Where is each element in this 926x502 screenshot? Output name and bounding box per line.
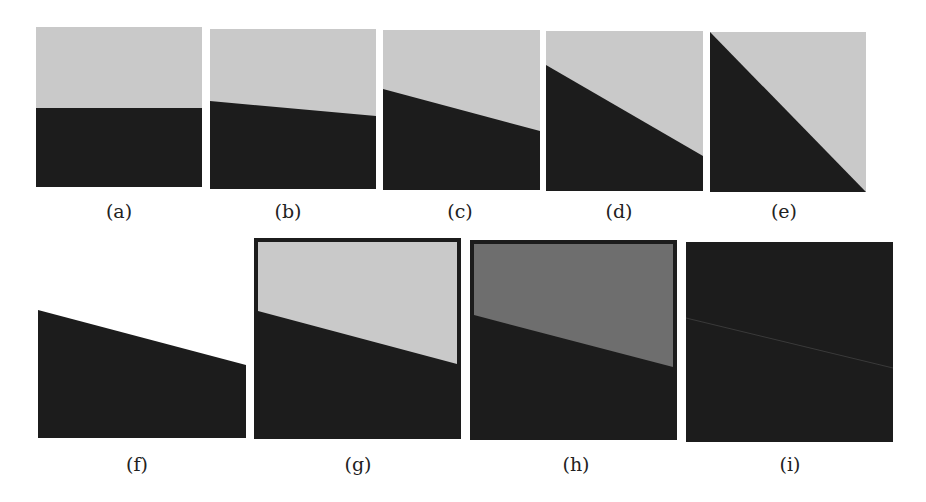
panel-g	[254, 238, 461, 439]
panel-d	[546, 31, 703, 191]
caption-b: (b)	[258, 200, 318, 222]
panel-f-image	[38, 238, 246, 438]
panel-h-image	[470, 240, 677, 440]
panel-i	[686, 242, 893, 442]
panel-c	[383, 30, 540, 190]
caption-i: (i)	[760, 453, 820, 475]
caption-a: (a)	[89, 200, 149, 222]
panel-i-image	[686, 242, 893, 442]
panel-e-image	[710, 32, 866, 192]
caption-e: (e)	[754, 200, 814, 222]
panel-a	[36, 27, 202, 187]
caption-c: (c)	[430, 200, 490, 222]
panel-e	[710, 32, 866, 192]
panel-h	[470, 240, 677, 440]
caption-f: (f)	[107, 453, 167, 475]
caption-g: (g)	[328, 453, 388, 475]
panel-c-image	[383, 30, 540, 190]
panel-b-image	[210, 29, 376, 189]
panel-g-image	[254, 238, 461, 439]
panel-d-image	[546, 31, 703, 191]
panel-b	[210, 29, 376, 189]
panel-a-image	[36, 27, 202, 187]
caption-d: (d)	[589, 200, 649, 222]
panel-f	[38, 238, 246, 438]
caption-h: (h)	[546, 453, 606, 475]
